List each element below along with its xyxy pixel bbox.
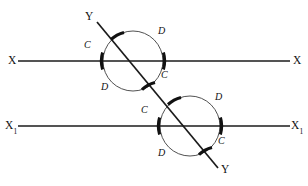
lower-circle-tick-right	[220, 118, 221, 135]
upper-circle-label-d-top: D	[158, 26, 165, 36]
upper-circle-tick-transversal-top	[111, 32, 124, 39]
lower-circle-label-c-right: C	[218, 136, 225, 146]
geometry-canvas	[0, 0, 308, 186]
upper-circle-tick-left	[101, 53, 102, 70]
transversal-bottom-label: Y	[221, 164, 229, 176]
lower-circle-tick-transversal-top	[168, 97, 181, 104]
upper-line-right-label: X	[293, 55, 301, 67]
lower-line-right-label-subscript: 1	[300, 127, 304, 136]
lower-line-right-label-base: X	[291, 119, 299, 131]
lower-circle-label-c-left: C	[141, 105, 148, 115]
geometry-figure: Y Y X X X1 X1 C D C D C D C D	[0, 0, 308, 186]
lower-line-right-label: X1	[291, 120, 303, 134]
upper-line-left-label: X	[8, 55, 16, 67]
upper-circle-label-c-left: C	[84, 40, 91, 50]
lower-circle-tick-left	[158, 118, 159, 135]
transversal-top-label: Y	[85, 11, 93, 23]
lower-line-left-label-subscript: 1	[14, 127, 18, 136]
upper-circle-label-c-right: C	[161, 70, 168, 80]
upper-circle-label-d-bottom: D	[101, 82, 108, 92]
lower-line-left-label: X1	[5, 120, 17, 134]
lower-circle-label-d-top: D	[215, 92, 222, 102]
upper-circle-tick-right	[163, 53, 164, 70]
lower-circle-label-d-bottom: D	[158, 148, 165, 158]
lower-line-left-label-base: X	[5, 119, 13, 131]
